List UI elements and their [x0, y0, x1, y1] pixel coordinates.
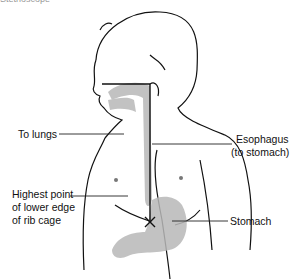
label-esophagus: Esophagus — [236, 133, 289, 146]
label-rib-line2: of lower edge — [12, 201, 75, 214]
label-rib-line1: Highest point — [12, 188, 73, 201]
label-esophagus-sub: (to stomach) — [231, 146, 289, 159]
label-to-lungs: To lungs — [18, 128, 57, 141]
digestive-shading — [108, 83, 187, 258]
label-rib-line3: of rib cage — [12, 214, 61, 227]
label-stomach: Stomach — [230, 215, 271, 228]
